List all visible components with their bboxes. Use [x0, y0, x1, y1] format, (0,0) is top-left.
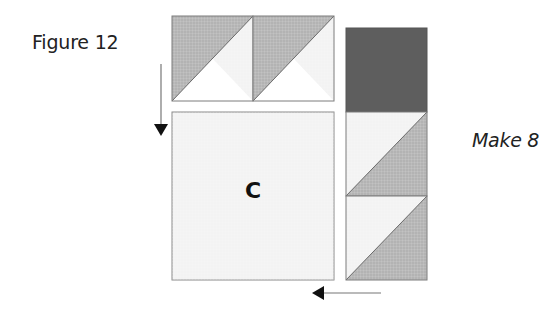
down-arrow-icon: [154, 64, 168, 136]
quilt-assembly-diagram: [0, 0, 558, 310]
block-c-label: C: [245, 178, 261, 203]
side-hst-lower: [346, 196, 427, 280]
side-hst-upper: [346, 112, 427, 196]
dark-square: [346, 28, 427, 112]
left-arrow-icon: [312, 286, 381, 300]
side-column: [346, 28, 427, 280]
hst-unit-right: [253, 16, 334, 101]
top-hst-pair: [172, 16, 334, 101]
hst-unit-left: [172, 16, 253, 101]
